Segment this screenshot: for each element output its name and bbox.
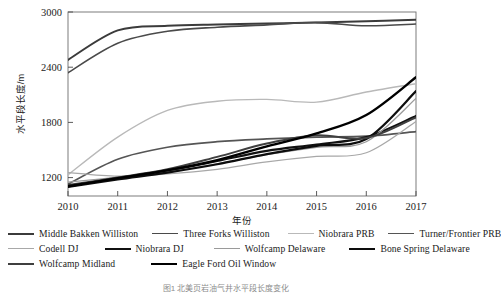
- x-tick-label: 2017: [406, 201, 427, 212]
- legend-item[interactable]: Three Forks Williston: [152, 229, 269, 239]
- y-tick-label: 1800: [41, 117, 62, 128]
- legend-item[interactable]: Wolfcamp Midland: [8, 259, 115, 269]
- legend-swatch-line-icon: [8, 233, 34, 235]
- chart-legend: Middle Bakken WillistonThree Forks Willi…: [8, 226, 444, 271]
- legend-swatch-line-icon: [388, 233, 414, 234]
- x-tick-label: 2014: [256, 201, 278, 212]
- legend-swatch-line-icon: [105, 248, 131, 250]
- legend-swatch-line-icon: [151, 263, 177, 265]
- legend-label: Three Forks Williston: [183, 229, 269, 239]
- x-tick-label: 2015: [306, 201, 327, 212]
- x-tick-label: 2012: [157, 201, 178, 212]
- x-tick-label: 2011: [107, 201, 128, 212]
- x-tick-label: 2016: [356, 201, 377, 212]
- legend-swatch-line-icon: [214, 248, 240, 249]
- legend-label: Turner/Frontier PRB: [419, 229, 501, 239]
- plot-frame: [68, 12, 416, 196]
- legend-label: Niobrara PRB: [319, 229, 375, 239]
- x-tick-label: 2010: [58, 201, 79, 212]
- legend-item[interactable]: Niobrara PRB: [288, 229, 375, 239]
- legend-item[interactable]: Bone Spring Delaware: [349, 244, 469, 254]
- legend-label: Eagle Ford Oil Window: [182, 259, 276, 269]
- legend-swatch-line-icon: [152, 233, 178, 234]
- y-tick-label: 2400: [41, 62, 62, 73]
- legend-item[interactable]: Middle Bakken Williston: [8, 229, 138, 239]
- y-tick-label: 3000: [41, 7, 62, 18]
- legend-label: Wolfcamp Delaware: [245, 244, 326, 254]
- legend-row: Codell DJNiobrara DJWolfcamp DelawareBon…: [8, 241, 444, 256]
- legend-label: Bone Spring Delaware: [380, 244, 469, 254]
- line-chart: 1200180024003000201020112012201320142015…: [0, 0, 452, 226]
- legend-item[interactable]: Wolfcamp Delaware: [214, 244, 326, 254]
- legend-label: Middle Bakken Williston: [39, 229, 138, 239]
- legend-swatch-line-icon: [288, 233, 314, 234]
- figure-caption: 图1 北美页岩油气井水平段长度变化: [0, 282, 452, 293]
- x-axis-label: 年份: [232, 215, 252, 226]
- legend-swatch-line-icon: [349, 248, 375, 250]
- legend-item[interactable]: Codell DJ: [8, 244, 79, 254]
- legend-label: Codell DJ: [39, 244, 79, 254]
- legend-swatch-line-icon: [8, 248, 34, 249]
- y-axis-label: 水平段长度/m: [15, 74, 26, 135]
- legend-row: Middle Bakken WillistonThree Forks Willi…: [8, 226, 444, 241]
- legend-label: Niobrara DJ: [136, 244, 184, 254]
- x-tick-label: 2013: [207, 201, 228, 212]
- legend-row: Wolfcamp MidlandEagle Ford Oil Window: [8, 256, 444, 271]
- legend-swatch-line-icon: [8, 263, 34, 265]
- legend-item[interactable]: Turner/Frontier PRB: [388, 229, 501, 239]
- legend-item[interactable]: Eagle Ford Oil Window: [151, 259, 276, 269]
- legend-label: Wolfcamp Midland: [39, 259, 115, 269]
- y-tick-label: 1200: [41, 172, 62, 183]
- legend-item[interactable]: Niobrara DJ: [105, 244, 184, 254]
